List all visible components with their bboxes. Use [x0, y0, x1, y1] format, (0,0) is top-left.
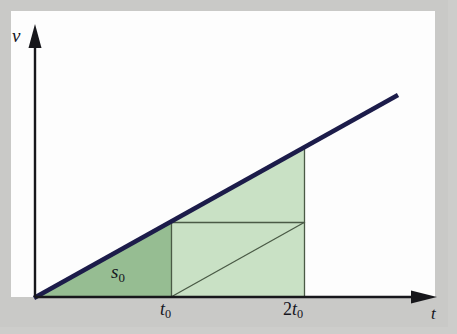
- x-tick-label-2t0-subscript: 0: [297, 307, 303, 321]
- t-axis-arrowhead: [411, 291, 437, 304]
- v-axis-arrowhead: [29, 24, 42, 48]
- x-tick-label-2t0: 2t0: [283, 300, 303, 321]
- x-axis-label: t: [431, 305, 436, 322]
- velocity-time-figure: v t s0 t0 2t0: [0, 0, 457, 334]
- x-tick-label-2t0-prefix: 2: [283, 299, 292, 319]
- area-label-s0-subscript: 0: [118, 270, 124, 285]
- x-tick-label-t0-subscript: 0: [165, 307, 171, 321]
- x-tick-label-t0: t0: [160, 300, 171, 321]
- y-axis-label: v: [12, 26, 20, 45]
- area-label-s0: s0: [111, 262, 125, 285]
- plot-graphics: [0, 0, 457, 334]
